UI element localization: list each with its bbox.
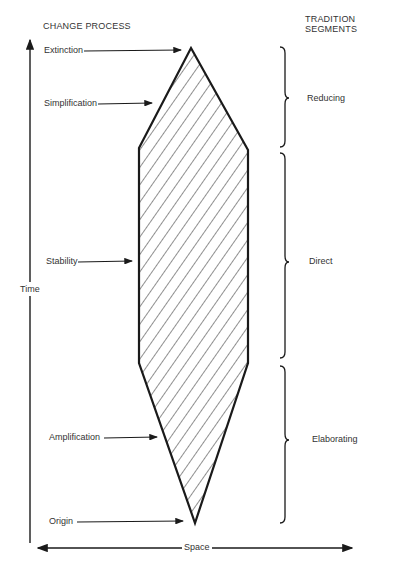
segment-elaborating: Elaborating [312,434,358,444]
label-extinction: Extinction [44,45,83,55]
brace-direct [280,153,289,358]
axis-label-space: Space [182,542,212,552]
label-amplification: Amplification [49,432,100,442]
tradition-shape [139,48,248,523]
brace-elaborating [280,366,289,523]
diagram-canvas [0,0,402,568]
label-origin: Origin [49,516,73,526]
label-simplification: Simplification [44,98,97,108]
segment-reducing: Reducing [307,93,345,103]
brace-reducing [280,47,289,147]
axis-label-time: Time [20,282,40,296]
segment-direct: Direct [309,256,333,266]
label-stability: Stability [46,256,78,266]
